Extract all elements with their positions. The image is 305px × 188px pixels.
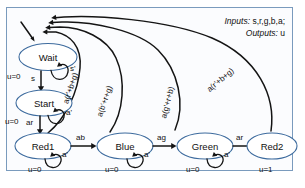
transition-blue-to-green: ag [153, 133, 177, 149]
state-blue-label: Blue [115, 141, 134, 152]
transition-start-to-red1-label: ar [26, 118, 33, 127]
state-machine-diagram: Wait u=0 s' s Start u=0 a' ar [0, 0, 305, 188]
transition-start-to-red1: ar [26, 116, 43, 135]
state-red2[interactable]: Red2 [247, 133, 297, 159]
state-wait-output: u=0 [7, 72, 21, 81]
transition-red1-to-blue: ab [71, 133, 97, 149]
transition-green-to-red2-label: ar [236, 133, 243, 142]
state-start-label: Start [34, 98, 54, 109]
outputs-value: u [278, 28, 285, 38]
state-green-output: u=0 [186, 165, 200, 174]
state-red2-output: u=1 [259, 165, 273, 174]
state-start-output: u=0 [5, 117, 19, 126]
io-legend: Inputs: s,r,g,b,a; Outputs: u [225, 16, 286, 38]
self-loop-red1-label: a' [62, 150, 68, 159]
state-wait-label: Wait [39, 52, 58, 63]
diagram-canvas: Wait u=0 s' s Start u=0 a' ar [0, 0, 305, 188]
inputs-key: Inputs: [225, 16, 251, 26]
transition-blue-to-wait-label: a(b'+r+g) [95, 84, 114, 118]
transition-red1-to-blue-label: ab [76, 133, 85, 142]
transition-red1-to-wait-label: a(r'+b+g) [61, 71, 80, 105]
transition-green-to-wait-label: a(g'+r+b) [159, 85, 176, 119]
initial-state-arrow [21, 22, 35, 42]
transition-blue-to-green-label: ag [157, 133, 166, 142]
state-red1-label: Red1 [32, 141, 55, 152]
self-loop-green-label: a' [224, 150, 230, 159]
inputs-value: s,r,g,b,a; [250, 16, 285, 26]
transition-red2-to-wait-label: a(r'+b+g) [205, 66, 236, 94]
inputs-line: Inputs: s,r,g,b,a; [225, 16, 286, 26]
state-wait[interactable]: Wait [19, 44, 77, 71]
self-loop-start-label: a' [66, 108, 72, 117]
self-loop-blue-label: a' [144, 150, 150, 159]
transition-wait-to-start: s [31, 71, 44, 92]
state-red1-output: u=0 [28, 165, 42, 174]
outputs-line: Outputs: u [246, 28, 286, 38]
state-green-label: Green [192, 141, 218, 152]
outputs-key: Outputs: [246, 28, 279, 38]
state-blue-output: u=0 [105, 165, 119, 174]
transition-wait-to-start-label: s [31, 74, 35, 83]
state-red2-label: Red2 [261, 141, 284, 152]
